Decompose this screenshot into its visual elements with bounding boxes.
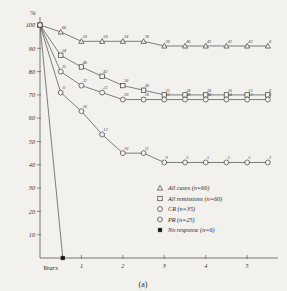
point-count-label: 9 bbox=[165, 155, 168, 160]
y-tick-label: 90 bbox=[29, 45, 36, 52]
chart-canvas: 100908070605040302010 12345 665950383026… bbox=[0, 0, 287, 291]
marker-square bbox=[59, 53, 63, 57]
point-count-label: 2 bbox=[269, 155, 271, 160]
point-count-label: 5 bbox=[207, 155, 209, 160]
point-count-label: 20 bbox=[124, 92, 129, 97]
marker-filled-square bbox=[61, 256, 65, 260]
point-labels: 6659503830264643434285448423838332418161… bbox=[62, 25, 272, 160]
point-count-label: 16 bbox=[83, 104, 88, 109]
marker-circle bbox=[120, 97, 125, 102]
point-count-label: 13 bbox=[248, 92, 252, 97]
point-count-label: 43 bbox=[228, 39, 232, 44]
marker-hexagon bbox=[162, 160, 167, 165]
marker-circle bbox=[224, 97, 229, 102]
point-count-label: 10 bbox=[124, 146, 129, 151]
x-tick-label: 5 bbox=[246, 262, 249, 269]
curve-no-response bbox=[40, 25, 63, 258]
legend-marker-triangle bbox=[157, 185, 162, 190]
point-count-label: 43 bbox=[207, 39, 211, 44]
y-tick-label: 20 bbox=[29, 208, 36, 215]
marker-square bbox=[79, 65, 83, 69]
marker-hexagon bbox=[224, 160, 229, 165]
point-count-label: 59 bbox=[83, 34, 88, 39]
point-count-label: 13 bbox=[165, 92, 169, 97]
point-count-label: 12 bbox=[103, 127, 107, 132]
point-count-label: 38 bbox=[124, 34, 129, 39]
y-tick-label: 80 bbox=[29, 68, 36, 75]
marker-circle bbox=[265, 97, 270, 102]
marker-circle bbox=[203, 97, 208, 102]
point-count-label: 32 bbox=[83, 78, 87, 83]
legend-item-no-response: No response (n=6) bbox=[167, 226, 215, 234]
marker-hexagon bbox=[100, 132, 105, 137]
legend-item-all-cases: All cases (n=66) bbox=[167, 184, 209, 192]
x-tick-label: 4 bbox=[204, 262, 207, 269]
point-count-label: 26 bbox=[165, 39, 170, 44]
marker-hexagon bbox=[141, 151, 146, 156]
curve-cr bbox=[40, 25, 268, 100]
marker-circle bbox=[100, 90, 105, 95]
marker-square bbox=[121, 83, 125, 87]
marker-hexagon bbox=[245, 160, 250, 165]
x-tick-label: 1 bbox=[80, 262, 83, 269]
y-tick-label: 70 bbox=[29, 91, 36, 98]
marker-circle bbox=[141, 97, 146, 102]
x-tick-label: 2 bbox=[121, 262, 124, 269]
curve-all-remissions bbox=[40, 25, 268, 95]
point-count-label: 8 bbox=[269, 39, 272, 44]
data-curves bbox=[40, 25, 268, 258]
point-count-label: 5 bbox=[228, 155, 230, 160]
legend-marker-circle bbox=[158, 207, 163, 212]
marker-hexagon bbox=[266, 160, 271, 165]
point-count-label: 22 bbox=[103, 85, 107, 90]
point-count-label: 5 bbox=[186, 155, 188, 160]
legend-marker-hexagon bbox=[158, 217, 163, 222]
marker-circle bbox=[162, 97, 167, 102]
marker-hexagon bbox=[183, 160, 188, 165]
legend-marker-filled-square bbox=[158, 228, 162, 232]
y-tick-label: 50 bbox=[29, 138, 36, 145]
point-count-label: 38 bbox=[145, 83, 150, 88]
marker-hexagon bbox=[121, 151, 126, 156]
marker-hexagon bbox=[58, 90, 63, 95]
point-count-label: 11 bbox=[145, 146, 149, 151]
point-count-label: 30 bbox=[145, 34, 150, 39]
marker-circle bbox=[79, 83, 84, 88]
y-tick-label: 10 bbox=[29, 231, 36, 238]
marker-hexagon bbox=[38, 22, 43, 27]
point-count-label: 42 bbox=[103, 69, 107, 74]
point-count-label: 48 bbox=[83, 60, 88, 65]
legend-item-cr: CR (n=35) bbox=[168, 205, 195, 213]
marker-hexagon bbox=[79, 109, 84, 114]
point-count-label: 54 bbox=[62, 48, 66, 53]
y-tick-label: 40 bbox=[29, 161, 36, 168]
point-count-label: 50 bbox=[103, 34, 108, 39]
y-tick-label: 60 bbox=[29, 114, 36, 121]
point-count-label: 46 bbox=[186, 39, 191, 44]
x-tick-label: 3 bbox=[162, 262, 166, 269]
survival-chart-figure: 100908070605040302010 12345 665950383026… bbox=[0, 0, 287, 291]
legend-item-pr: PR (n=25) bbox=[167, 216, 195, 224]
y-axis-ticks: 100908070605040302010 bbox=[26, 21, 41, 238]
y-tick-label: 30 bbox=[28, 184, 36, 191]
marker-square bbox=[100, 74, 104, 78]
y-axis-label: % bbox=[30, 9, 36, 16]
figure-caption: (a) bbox=[139, 280, 148, 289]
x-axis-label: Years bbox=[43, 264, 58, 271]
point-count-label: 35 bbox=[62, 64, 66, 69]
curve-all-cases bbox=[40, 25, 268, 46]
point-count-label: 14 bbox=[228, 92, 232, 97]
point-count-label: 66 bbox=[62, 25, 67, 30]
point-count-label: 5 bbox=[248, 155, 250, 160]
x-axis-ticks: 12345 bbox=[80, 255, 249, 269]
point-count-label: 6 bbox=[269, 92, 272, 97]
point-count-label: 38 bbox=[124, 78, 129, 83]
marker-circle bbox=[245, 97, 250, 102]
y-tick-label: 100 bbox=[26, 21, 36, 28]
point-count-label: 11 bbox=[62, 85, 66, 90]
legend-item-all-remissions: All remissions (n=60) bbox=[167, 195, 222, 203]
legend-marker-square bbox=[158, 196, 162, 200]
marker-circle bbox=[183, 97, 188, 102]
chart-legend: All cases (n=66)All remissions (n=60)CR … bbox=[157, 184, 222, 234]
data-markers bbox=[37, 22, 270, 259]
